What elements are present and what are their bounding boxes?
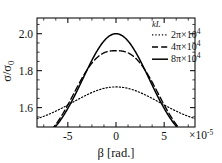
x-tick-label: -5 [63,130,73,142]
y-axis-title-wrap: σ/σ0 [0,54,17,98]
x-tick-label: 5 [161,130,167,142]
x-tick-label: 0 [113,130,119,142]
x-axis-multiplier: ×10-5 [189,128,213,141]
y-tick-label: 1.6 [19,102,34,114]
y-axis-title: σ/σ0 [0,49,16,93]
y-tick-label: 1.8 [19,65,34,77]
chart-svg: -505 1.61.82.0 ×10-5 β [rad.] kL 2π×1044… [0,0,222,163]
x-tick-labels: -505 [63,130,167,142]
x-axis-title: β [rad.] [98,146,135,160]
legend-label-2: 4π×104 [171,39,201,52]
y-tick-label: 2.0 [19,28,34,40]
chart-figure: -505 1.61.82.0 ×10-5 β [rad.] kL 2π×1044… [0,0,222,163]
legend-title: kL [152,19,161,29]
y-tick-labels: 1.61.82.0 [19,28,34,114]
legend-label-3: 8π×104 [171,51,201,64]
legend-label-1: 2π×104 [171,27,201,40]
